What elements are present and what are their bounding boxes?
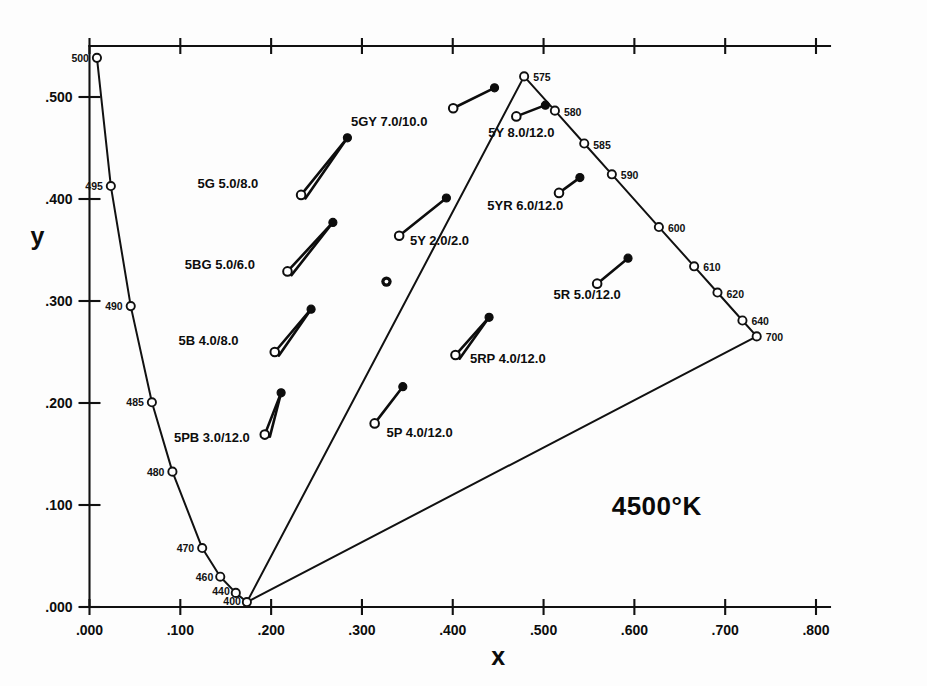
sample-end-point: [399, 383, 407, 391]
wavelength-label: 490: [105, 300, 123, 312]
munsell-sample-label: 5PB 3.0/12.0: [174, 430, 250, 445]
munsell-sample: [449, 84, 499, 113]
axis-titles-group: xy: [31, 222, 506, 670]
y-tick-label: .300: [45, 293, 72, 309]
munsell-sample-label: 5R 5.0/12.0: [554, 287, 621, 302]
munsell-sample-label: 5BG 5.0/6.0: [185, 257, 255, 272]
x-tick-label: .700: [712, 622, 739, 638]
wavelength-label: 400: [223, 595, 241, 607]
y-axis-title: y: [31, 222, 45, 250]
sample-end-point: [307, 305, 315, 313]
sample-end-point: [624, 254, 632, 262]
sample-segment-secondary: [292, 222, 333, 275]
munsell-sample: [297, 134, 352, 199]
sample-start-point: [512, 112, 521, 121]
x-tick-label: .600: [621, 622, 648, 638]
wavelength-label: 460: [196, 571, 214, 583]
munsell-sample-label: 5YR 6.0/12.0: [487, 198, 563, 213]
sample-start-point: [395, 231, 404, 240]
wavelength-label: 500: [71, 52, 89, 64]
color-temperature-label: 4500°K: [612, 491, 702, 521]
spectral-locus-point: [713, 288, 721, 296]
wavelength-label: 485: [126, 396, 144, 408]
sample-end-point: [277, 389, 285, 397]
spectral-locus-point: [608, 170, 616, 178]
sample-start-point: [555, 189, 564, 198]
x-tick-label: .500: [530, 622, 557, 638]
sample-segment-secondary: [279, 309, 311, 355]
sample-start-point: [283, 267, 292, 276]
line-of-purples-group: [247, 336, 757, 602]
chromaticity-diagram-figure: 5004954904854804704604404005755805855906…: [0, 0, 927, 686]
spectral-locus-point: [148, 398, 156, 406]
x-tick-label: .000: [76, 622, 103, 638]
wavelength-label: 600: [668, 222, 686, 234]
spectral-locus-point: [580, 139, 588, 147]
spectral-locus-point: [655, 223, 663, 231]
sample-end-point: [343, 134, 351, 142]
wavelength-label: 585: [593, 139, 611, 151]
y-tick-label: .500: [45, 89, 72, 105]
chart-canvas: 5004954904854804704604404005755805855906…: [0, 0, 927, 686]
munsell-sample: [370, 383, 406, 428]
wavelength-label: 640: [751, 315, 769, 327]
x-tick-label: .100: [167, 622, 194, 638]
sample-start-point: [270, 348, 279, 357]
y-tick-label: .400: [45, 191, 72, 207]
x-axis-title: x: [491, 642, 505, 670]
munsell-sample-label: 5Y 2.0/2.0: [410, 233, 469, 248]
tick-labels-group: .000.100.200.300.400.500.600.700.800.000…: [45, 89, 830, 638]
sample-end-point: [442, 194, 450, 202]
wavelength-label: 470: [177, 542, 195, 554]
sample-start-point: [449, 104, 458, 113]
wavelength-label: 580: [564, 106, 582, 118]
spectral-locus-point: [93, 54, 101, 62]
sample-end-point: [491, 84, 499, 92]
axes-group: [79, 38, 831, 615]
munsell-sample: [593, 254, 632, 288]
spectral-locus-point: [243, 598, 251, 606]
munsell-sample: [270, 305, 315, 356]
wavelength-label: 495: [85, 180, 103, 192]
white-point-group: [381, 276, 391, 286]
wavelength-labels-group: 5004954904854804704604404005755805855906…: [71, 52, 783, 607]
wavelength-label: 620: [726, 288, 744, 300]
sample-start-point: [370, 419, 379, 428]
spectral-locus-point: [107, 182, 115, 190]
sample-start-point: [451, 351, 460, 360]
sample-end-point: [576, 174, 584, 182]
spectral-locus-point: [198, 544, 206, 552]
spectral-locus-point: [690, 262, 698, 270]
munsell-sample-label: 5Y 8.0/12.0: [488, 125, 554, 140]
munsell-sample: [512, 101, 549, 121]
sample-end-point: [541, 101, 549, 109]
wavelength-label: 480: [147, 466, 165, 478]
x-tick-label: .300: [348, 622, 375, 638]
spectral-locus-point: [738, 316, 746, 324]
munsell-sample-label: 5P 4.0/12.0: [386, 425, 452, 440]
spectral-locus-point: [216, 573, 224, 581]
line-of-purples: [247, 336, 757, 602]
sample-segment: [597, 258, 628, 284]
spectral-locus-point: [551, 107, 559, 115]
spectral-locus-point: [753, 332, 761, 340]
munsell-sample-label: 5G 5.0/8.0: [198, 176, 259, 191]
x-tick-label: .800: [802, 622, 829, 638]
munsell-sample-label: 5GY 7.0/10.0: [351, 114, 427, 129]
white-point-center: [385, 280, 389, 284]
wavelength-label: 575: [533, 71, 551, 83]
spectral-locus-point: [168, 468, 176, 476]
sample-start-point: [297, 191, 306, 200]
y-tick-label: .100: [45, 497, 72, 513]
y-tick-label: .000: [45, 599, 72, 615]
sample-segment-secondary: [305, 138, 347, 199]
sample-end-point: [329, 218, 337, 226]
munsell-samples-group: [260, 84, 632, 439]
sample-segment: [453, 88, 494, 108]
wavelength-label: 700: [766, 331, 784, 343]
temperature-annotation-group: 4500°K: [612, 491, 702, 521]
wavelength-label: 590: [621, 169, 639, 181]
sample-start-point: [260, 430, 269, 439]
spectral-locus-point: [520, 72, 528, 80]
munsell-sample-label: 5B 4.0/8.0: [178, 333, 238, 348]
